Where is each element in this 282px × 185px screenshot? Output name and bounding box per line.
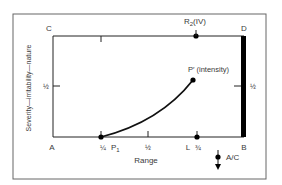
corner-label-a: A <box>49 143 55 152</box>
pain-curve <box>101 80 193 137</box>
p-prime-label: P′ (intensity) <box>188 65 230 74</box>
corner-label-b: B <box>241 143 246 152</box>
right-half-label: ½ <box>250 83 256 90</box>
ac-label: A/C <box>226 153 240 162</box>
down-arrow-icon <box>215 164 221 170</box>
left-half-label: ½ <box>43 83 49 90</box>
corner-label-c: C <box>46 24 52 33</box>
l-point <box>194 134 199 139</box>
p-prime-point <box>190 77 195 82</box>
corner-label-d: D <box>241 24 247 33</box>
tick-label-quarter: ¼ <box>100 144 106 151</box>
tick-label-half: ½ <box>145 144 151 151</box>
tick-label-three-quarter: ¾ <box>195 144 201 151</box>
x-axis-label: Range <box>134 156 158 165</box>
r2-label: R2(IV) <box>184 17 206 27</box>
p1-point <box>98 134 103 139</box>
p1-label: P1 <box>111 143 120 153</box>
y-axis-label: Severity—irritability—nature <box>25 45 33 132</box>
movement-diagram: C D A B Severity—irritability—nature ½ ½… <box>0 0 282 185</box>
l-label: L <box>186 143 191 152</box>
ac-point <box>215 154 220 159</box>
limit-bar-db <box>241 36 246 137</box>
